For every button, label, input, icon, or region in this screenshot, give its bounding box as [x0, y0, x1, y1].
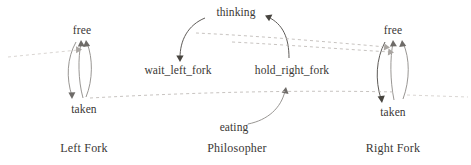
sync-link-philosopher-to-right-free-lower — [232, 42, 390, 52]
arrowhead-hold-right-fork-to-thinking — [265, 15, 272, 22]
edge-eating-to-hold-right-fork — [248, 91, 285, 124]
sync-link-right-exit — [407, 95, 468, 97]
synchronisation-links — [8, 33, 468, 98]
group-label-right-fork: Right Fork — [366, 142, 420, 154]
state-label-thinking: thinking — [216, 7, 255, 19]
arrowhead-right-taken-to-free — [399, 40, 406, 47]
state-label-right-free: free — [384, 25, 402, 37]
state-label-left-free: free — [73, 25, 91, 37]
right-fork-edges — [377, 40, 408, 103]
group-label-philosopher: Philosopher — [207, 142, 267, 154]
sync-link-left-entry-free — [8, 50, 78, 57]
arrowhead-thinking-to-wait-left-fork — [176, 55, 183, 62]
edge-right-taken-to-free — [403, 43, 408, 99]
arrowhead-right-free-to-taken — [378, 96, 385, 103]
arrowhead-left-free-to-taken — [68, 92, 75, 99]
arrowhead-eating-to-hold-right-fork — [282, 87, 289, 94]
state-label-left-taken: taken — [71, 104, 96, 116]
arrowhead-right-fork-inner — [390, 40, 397, 47]
sync-link-philosopher-to-right-free-upper — [196, 33, 386, 47]
state-label-right-taken: taken — [380, 107, 405, 119]
arrowhead-sync-left-entry-free — [76, 46, 82, 53]
edge-right-free-to-taken — [377, 42, 385, 99]
state-label-hold-right-fork: hold_right_fork — [255, 65, 329, 77]
edge-left-fork-inner — [79, 43, 83, 98]
state-machine-diagram: free taken thinking wait_left_fork hold_… — [0, 0, 471, 165]
edge-hold-right-fork-to-thinking — [268, 17, 289, 58]
edge-left-taken-to-free — [86, 43, 91, 97]
state-label-eating: eating — [220, 122, 249, 134]
edge-thinking-to-wait-left-fork — [180, 18, 205, 58]
state-label-wait-left-fork: wait_left_fork — [144, 65, 211, 77]
arrowhead-left-fork-inner — [78, 40, 85, 47]
sync-link-left-taken-to-right — [90, 91, 396, 98]
group-label-left-fork: Left Fork — [60, 142, 107, 154]
